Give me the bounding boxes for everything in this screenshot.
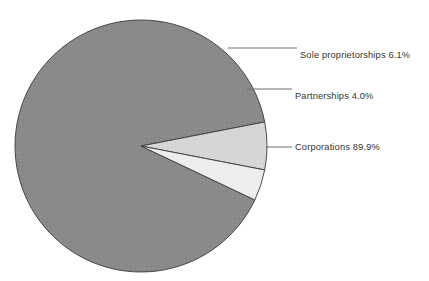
pie-chart-figure: Sole proprietorships 6.1% Partnerships 4… [0,0,429,281]
pie-label-corporations: Corporations 89.9% [295,142,380,152]
pie-label-partnerships: Partnerships 4.0% [295,91,374,101]
pie-label-sole-proprietorships: Sole proprietorships 6.1% [300,50,410,60]
pie-chart-canvas: Sole proprietorships 6.1% Partnerships 4… [0,0,429,281]
